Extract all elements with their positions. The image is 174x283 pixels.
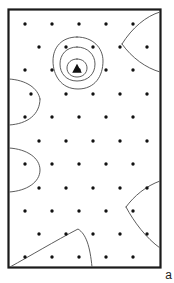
station-dot	[91, 45, 94, 48]
station-dot	[50, 255, 53, 258]
station-dot	[145, 45, 148, 48]
station-dot	[64, 232, 67, 235]
station-dot	[50, 68, 53, 71]
station-dot	[37, 232, 40, 235]
station-dot	[23, 162, 26, 165]
contour-map-canvas	[0, 0, 174, 283]
station-dot	[118, 139, 121, 142]
station-dot	[23, 255, 26, 258]
station-dot	[91, 92, 94, 95]
station-dot	[50, 162, 53, 165]
station-dot	[118, 232, 121, 235]
station-dot	[91, 139, 94, 142]
station-dot	[131, 22, 134, 25]
station-dot	[77, 162, 80, 165]
station-dot	[64, 92, 67, 95]
station-dot	[77, 22, 80, 25]
station-dot	[104, 255, 107, 258]
station-dot	[77, 115, 80, 118]
station-dot	[77, 209, 80, 212]
station-dot	[64, 45, 67, 48]
station-dot	[50, 22, 53, 25]
station-dot	[131, 162, 134, 165]
station-dot	[145, 139, 148, 142]
station-dot	[64, 186, 67, 189]
station-dot	[37, 45, 40, 48]
station-dot	[77, 255, 80, 258]
station-dot	[37, 139, 40, 142]
station-dot	[104, 68, 107, 71]
station-dot	[104, 162, 107, 165]
station-dot	[91, 186, 94, 189]
station-dot	[23, 22, 26, 25]
station-dot	[145, 186, 148, 189]
station-dot	[131, 68, 134, 71]
station-dot	[145, 92, 148, 95]
station-dot	[91, 232, 94, 235]
station-dot	[23, 209, 26, 212]
station-dot	[29, 92, 32, 95]
station-dot	[37, 186, 40, 189]
station-dot	[118, 92, 121, 95]
station-dot	[145, 232, 148, 235]
station-dot	[118, 45, 121, 48]
station-dot	[104, 115, 107, 118]
panel-label-a: a	[165, 269, 172, 281]
station-dot	[118, 186, 121, 189]
station-dot	[64, 139, 67, 142]
contour-figure-panel: a	[0, 0, 174, 283]
station-dot	[23, 115, 26, 118]
station-dot	[104, 22, 107, 25]
station-dot	[50, 115, 53, 118]
station-dot	[104, 209, 107, 212]
station-dot	[131, 255, 134, 258]
station-dot	[50, 209, 53, 212]
station-dot	[131, 209, 134, 212]
station-dot	[23, 68, 26, 71]
station-dot	[131, 115, 134, 118]
